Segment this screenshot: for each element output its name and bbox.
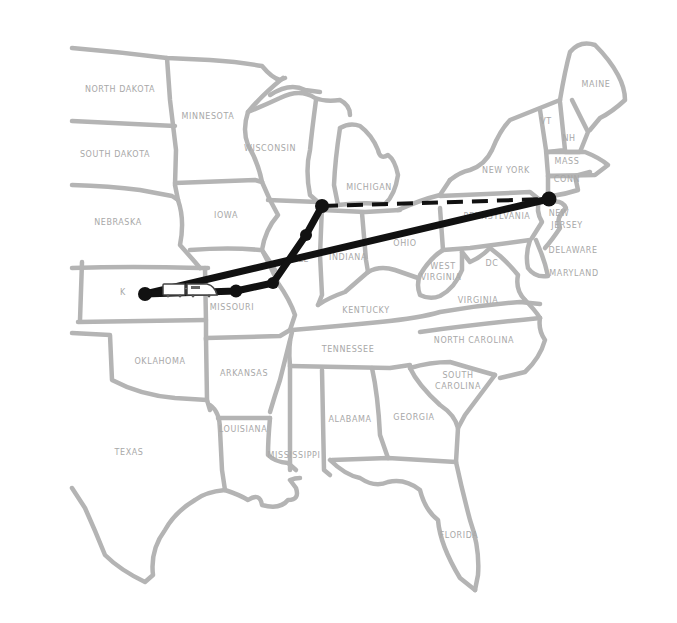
border-ia-west <box>178 200 200 268</box>
state-label: OKLAHOMA <box>134 357 185 366</box>
state-label: VT <box>540 117 552 126</box>
border-ar-east <box>270 340 290 412</box>
border-mi-in-oh <box>322 210 400 212</box>
us-map: NORTH DAKOTA MINNESOTA SOUTH DAKOTA WISC… <box>0 0 677 623</box>
border-nc-coast <box>500 318 545 378</box>
route-stop-kansas <box>138 287 152 301</box>
border-ky-tn <box>292 302 540 330</box>
state-label: NEW <box>549 209 570 218</box>
state-label: K <box>120 288 126 297</box>
route-stop-illinois-south <box>267 277 279 289</box>
state-label: MISSOURI <box>210 303 254 312</box>
border-dakotas-mn <box>167 58 178 200</box>
state-label: MICHIGAN <box>346 183 392 192</box>
state-label: ARKANSAS <box>220 369 268 378</box>
border-ks-ok <box>78 320 206 322</box>
state-label: SOUTH <box>442 371 473 380</box>
border-mn-ia <box>175 180 262 183</box>
state-label: INDIANA <box>329 253 367 262</box>
border-vt-nh <box>548 102 565 152</box>
border-mn-wi <box>245 78 283 182</box>
state-label: NORTH CAROLINA <box>434 336 514 345</box>
state-label: WISCONSIN <box>244 144 296 153</box>
state-label: NORTH DAKOTA <box>85 85 155 94</box>
state-label: NH <box>562 134 575 143</box>
border-ks-west <box>80 262 82 320</box>
border-nh-me <box>565 100 588 152</box>
state-label: FLORIDA <box>440 531 479 540</box>
train-window <box>191 286 200 289</box>
border-fl-east <box>456 462 478 590</box>
train-wheel <box>208 295 211 298</box>
state-label: DELAWARE <box>548 246 597 255</box>
border-in-ky <box>318 272 368 305</box>
border-sd-ne <box>72 185 178 200</box>
state-label: VIRGINIA <box>421 273 462 282</box>
border-gulf-coast <box>330 460 475 590</box>
state-label: GEORGIA <box>393 413 434 422</box>
state-label: SOUTH DAKOTA <box>80 150 150 159</box>
route-stop-michigan <box>315 199 329 213</box>
train-wheel <box>167 295 170 298</box>
state-label: DC <box>486 259 499 268</box>
border-michigan-lower <box>334 124 398 205</box>
border-northern-plains <box>72 48 285 80</box>
border-ia-mo <box>190 249 260 251</box>
state-label: LOUISIANA <box>219 425 267 434</box>
border-tx-coast <box>72 488 225 582</box>
state-label: MISSISSIPPI <box>268 451 321 460</box>
train-wheel <box>179 295 182 298</box>
border-oh-ky <box>368 268 418 278</box>
state-label: CAROLINA <box>435 382 481 391</box>
border-ne-ks <box>72 267 208 268</box>
state-label: OHIO <box>393 239 416 248</box>
state-label: NEBRASKA <box>94 218 142 227</box>
state-label: MAINE <box>582 80 611 89</box>
state-label: MASS <box>555 157 580 166</box>
border-mo-south <box>206 330 290 338</box>
border-tn-south <box>290 365 410 368</box>
border-ok-panhandle <box>72 333 207 400</box>
border-md-va <box>462 248 525 300</box>
border-al-ga <box>372 368 388 458</box>
state-label: TEXAS <box>114 448 144 457</box>
state-label: JERSEY <box>550 221 583 230</box>
border-wi-il <box>268 200 318 202</box>
state-label: ALABAMA <box>328 415 371 424</box>
border-fl-ga <box>332 458 456 462</box>
state-label: VIRGINIA <box>458 296 499 305</box>
train-locomotive <box>187 284 217 295</box>
state-label: NEW YORK <box>482 166 530 175</box>
state-label: IOWA <box>214 211 238 220</box>
state-label: WEST <box>430 262 455 271</box>
border-lake-michigan-west <box>308 100 319 202</box>
train-wheel <box>192 295 195 298</box>
border-la-coast <box>225 478 300 507</box>
border-nd-sd <box>72 121 175 126</box>
route-stop-missouri <box>230 285 243 298</box>
train-icon <box>163 284 217 297</box>
border-oh-pa <box>440 208 443 250</box>
border-va-nc <box>420 318 540 332</box>
state-label: TENNESSEE <box>321 345 375 354</box>
state-label: MINNESOTA <box>182 112 235 121</box>
route-stop-east-coast <box>542 192 557 207</box>
train-car-rear <box>163 284 185 295</box>
state-label: CONN <box>554 175 580 184</box>
state-label: MARYLAND <box>549 269 598 278</box>
state-label: KENTUCKY <box>342 306 389 315</box>
route-stop-illinois-north <box>300 229 312 241</box>
